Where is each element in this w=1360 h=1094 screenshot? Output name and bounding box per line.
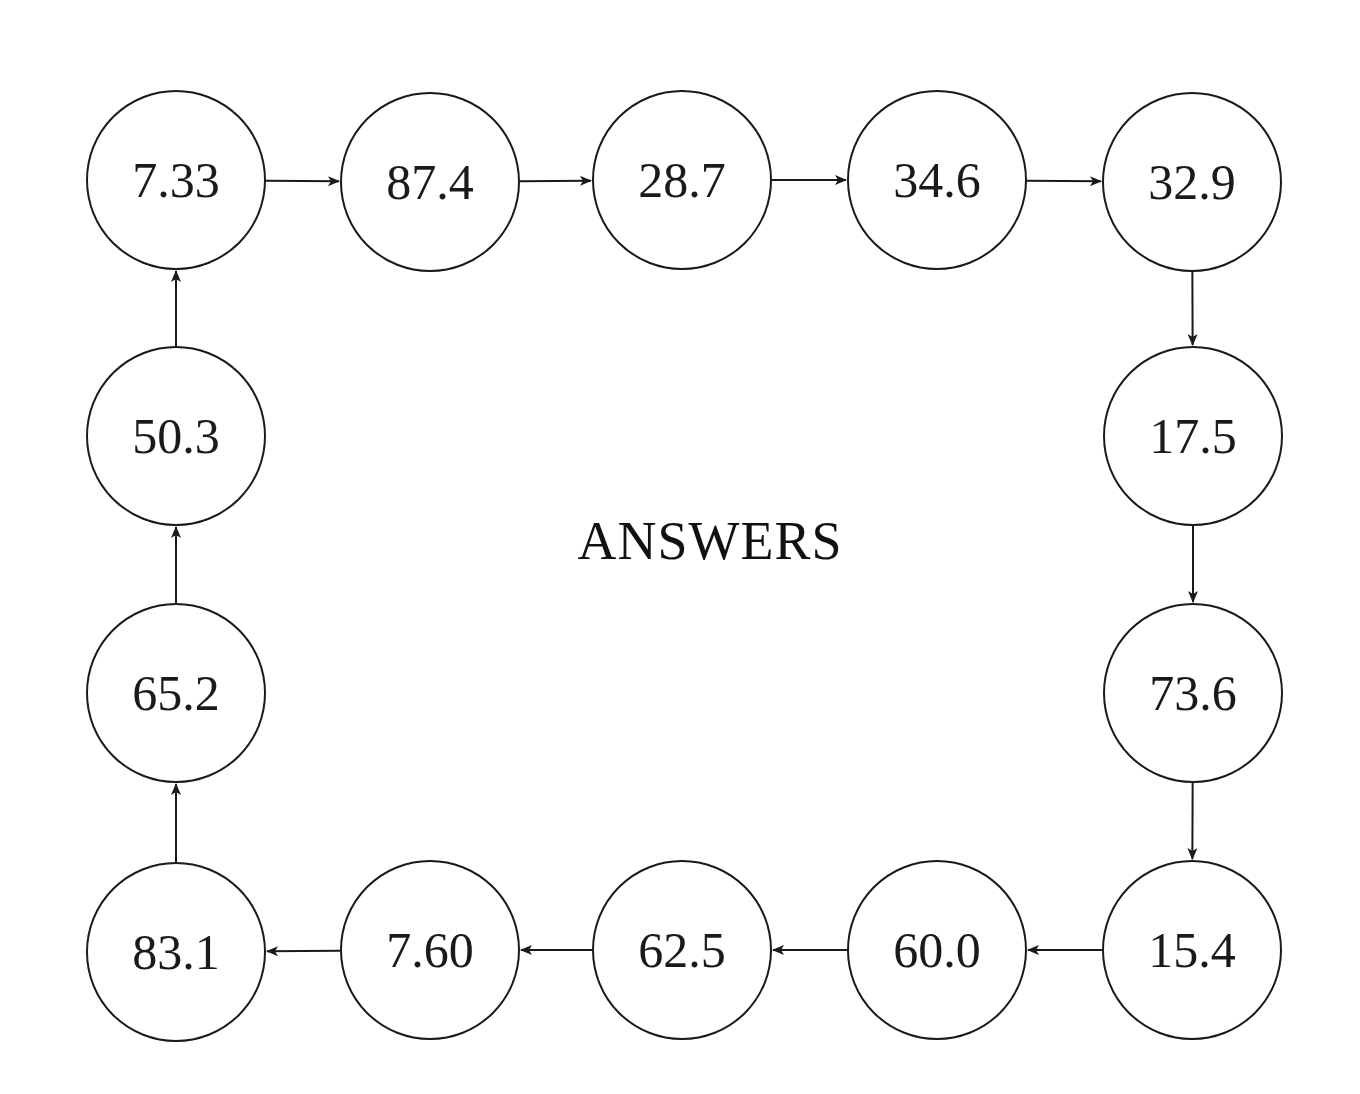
node-circle: 50.3 bbox=[86, 346, 266, 526]
node-value: 15.4 bbox=[1148, 925, 1236, 975]
node-value: 60.0 bbox=[893, 925, 981, 975]
node-value: 7.33 bbox=[132, 155, 220, 205]
node-circle: 17.5 bbox=[1103, 346, 1283, 526]
node-circle: 28.7 bbox=[592, 90, 772, 270]
node-circle: 60.0 bbox=[847, 860, 1027, 1040]
node-value: 87.4 bbox=[386, 157, 474, 207]
node-circle: 83.1 bbox=[86, 862, 266, 1042]
arrow-icon bbox=[266, 181, 339, 182]
node-circle: 7.60 bbox=[340, 860, 520, 1040]
node-circle: 87.4 bbox=[340, 92, 520, 272]
node-value: 17.5 bbox=[1149, 411, 1237, 461]
node-value: 32.9 bbox=[1148, 157, 1236, 207]
node-circle: 73.6 bbox=[1103, 603, 1283, 783]
arrow-icon bbox=[267, 951, 340, 952]
arrow-icon bbox=[1027, 181, 1101, 182]
node-circle: 15.4 bbox=[1102, 860, 1282, 1040]
arrow-icon bbox=[520, 181, 591, 182]
node-value: 73.6 bbox=[1149, 668, 1237, 718]
answer-cycle-diagram: 7.3387.428.734.632.917.573.615.460.062.5… bbox=[0, 0, 1360, 1094]
node-value: 34.6 bbox=[893, 155, 981, 205]
node-value: 50.3 bbox=[132, 411, 220, 461]
node-value: 7.60 bbox=[386, 925, 474, 975]
node-circle: 32.9 bbox=[1102, 92, 1282, 272]
node-value: 28.7 bbox=[638, 155, 726, 205]
node-value: 65.2 bbox=[132, 668, 220, 718]
node-value: 62.5 bbox=[638, 925, 726, 975]
node-circle: 62.5 bbox=[592, 860, 772, 1040]
node-circle: 34.6 bbox=[847, 90, 1027, 270]
node-value: 83.1 bbox=[132, 927, 220, 977]
diagram-title: ANSWERS bbox=[0, 510, 1360, 572]
node-circle: 7.33 bbox=[86, 90, 266, 270]
node-circle: 65.2 bbox=[86, 603, 266, 783]
